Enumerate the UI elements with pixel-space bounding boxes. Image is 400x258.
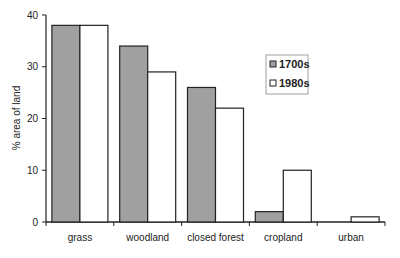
bar-1980s-closed-forest [216, 108, 244, 222]
bar-1980s-grass [80, 25, 108, 222]
legend: 1700s1980s [266, 55, 310, 94]
y-tick-label: 30 [27, 61, 39, 72]
category-label: cropland [264, 232, 302, 243]
bar-1700s-grass [52, 25, 80, 222]
y-axis-label: % area of land [11, 86, 22, 151]
bar-chart: 010203040 grasswoodlandclosed forestcrop… [0, 0, 400, 258]
bars [52, 25, 379, 222]
y-tick-label: 0 [32, 217, 38, 228]
category-label: urban [338, 232, 364, 243]
legend-swatch [270, 80, 276, 86]
legend-label: 1700s [279, 58, 310, 70]
bar-1980s-urban [351, 217, 379, 222]
bar-1980s-woodland [148, 72, 176, 222]
y-tick-label: 40 [27, 10, 39, 21]
category-label: closed forest [187, 232, 244, 243]
category-label: grass [68, 232, 92, 243]
bar-1700s-woodland [120, 46, 148, 222]
x-axis: grasswoodlandclosed forestcroplandurban [46, 222, 385, 243]
bar-1700s-closed-forest [188, 87, 216, 222]
legend-swatch [270, 61, 276, 67]
y-axis: 010203040 [27, 10, 46, 228]
category-label: woodland [125, 232, 169, 243]
y-tick-label: 10 [27, 165, 39, 176]
bar-1980s-cropland [283, 170, 311, 222]
y-tick-label: 20 [27, 113, 39, 124]
legend-label: 1980s [279, 77, 310, 89]
bar-1700s-cropland [255, 212, 283, 222]
